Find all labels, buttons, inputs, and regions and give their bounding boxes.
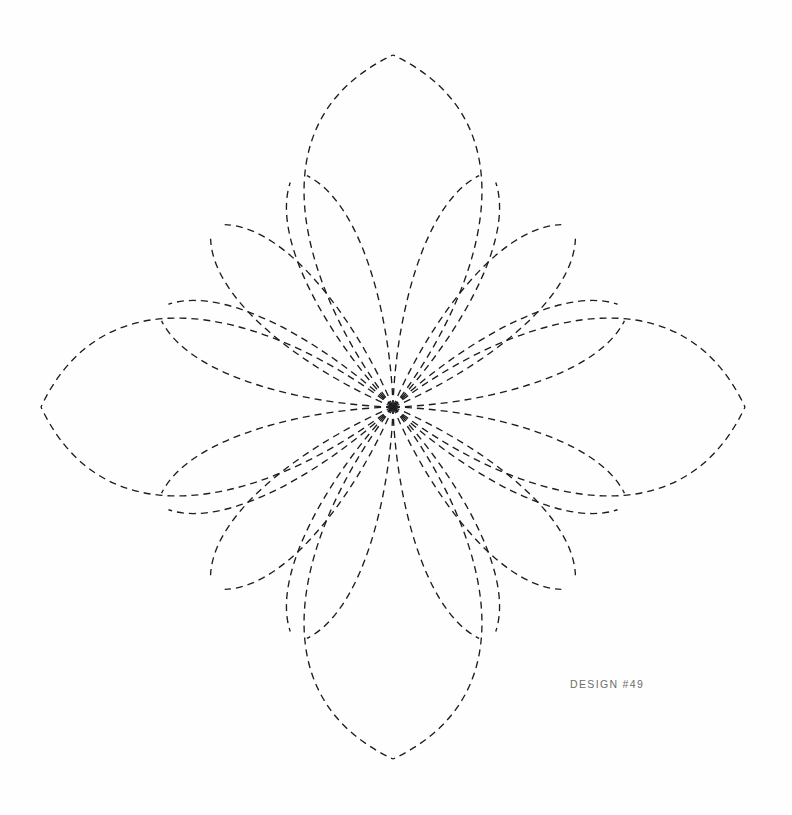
pattern-arm [225,407,393,589]
pattern-arm [304,407,393,759]
pattern-arm [41,407,393,496]
pattern-arm [393,407,561,589]
pattern-stroke-group [41,55,745,759]
pattern-arm [393,407,575,575]
pattern-arm [211,239,393,407]
pattern-arm [393,55,482,407]
pattern-arm [307,407,393,638]
pattern-arm [393,318,745,407]
pattern-arm [393,407,482,759]
pattern-arm [393,176,479,407]
pattern-arm [307,176,393,407]
pattern-arm [393,225,561,407]
design-caption: DESIGN #49 [570,679,644,690]
pattern-arm [393,321,624,407]
pattern-arm [393,407,745,496]
design-sheet: DESIGN #49 [0,0,792,815]
pattern-arm [393,239,575,407]
pattern-arm [162,407,393,493]
pattern-arm [393,407,479,638]
pattern-arm [225,225,393,407]
pattern-arm [304,55,393,407]
quilting-pattern-canvas [0,0,792,815]
pattern-arm [162,321,393,407]
pattern-arm [211,407,393,575]
pattern-arm [41,318,393,407]
pattern-arm [393,407,624,493]
